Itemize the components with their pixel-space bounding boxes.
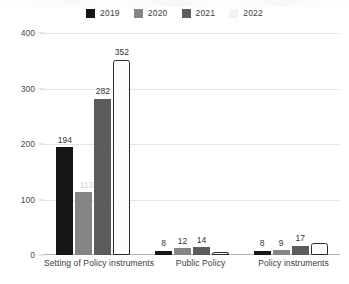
bar-value-label: 194 <box>58 136 72 145</box>
bar-slot: 9 <box>273 33 290 255</box>
bar-2021-1[interactable] <box>94 99 111 256</box>
bar-2022-1[interactable] <box>113 60 130 255</box>
legend-item-2022[interactable]: 2022 <box>229 9 263 18</box>
bar-value-label: 282 <box>96 87 110 96</box>
bar-slot: 352 <box>113 33 130 255</box>
bar-slot <box>311 33 328 255</box>
bar-2022-3[interactable] <box>311 243 328 255</box>
bar-slot: 8 <box>254 33 271 255</box>
legend-swatch-2019 <box>86 9 95 18</box>
y-axis-tick-mark <box>39 255 44 256</box>
y-axis-tick-mark <box>39 88 44 89</box>
legend-swatch-2021 <box>182 9 191 18</box>
bar-slot <box>212 33 229 255</box>
bar-slot: 282 <box>94 33 111 255</box>
y-axis-tick-label: 100 <box>21 195 35 205</box>
chart-legend: 2019 2020 2021 2022 <box>0 9 349 18</box>
bar-group: 8917 <box>241 33 340 255</box>
bar-chart: 2019 2020 2021 2022 0100200300400 194113… <box>0 0 349 284</box>
bar-slot: 14 <box>193 33 210 255</box>
bar-slot: 194 <box>56 33 73 255</box>
x-axis-category-label: Public Policy <box>154 258 247 268</box>
bar-2019-1[interactable] <box>56 147 73 255</box>
bar-group: 81214 <box>143 33 242 255</box>
bar-2021-2[interactable] <box>193 247 210 255</box>
y-axis: 0100200300400 <box>0 33 40 255</box>
bar-2019-2[interactable] <box>155 251 172 255</box>
y-axis-tick-label: 300 <box>21 84 35 94</box>
bar-slot: 17 <box>292 33 309 255</box>
bar-value-label: 352 <box>115 48 129 57</box>
bar-2019-3[interactable] <box>254 251 271 255</box>
y-axis-tick-mark <box>39 199 44 200</box>
plot-area: 194113282352812148917 <box>44 33 340 255</box>
bar-value-label: 12 <box>178 237 187 246</box>
bar-value-label: 8 <box>260 239 265 248</box>
legend-item-2020[interactable]: 2020 <box>134 9 168 18</box>
bar-groups: 194113282352812148917 <box>44 33 340 255</box>
x-axis-category-label: Policy instruments <box>247 258 340 268</box>
bar-slot: 8 <box>155 33 172 255</box>
scan-artifact <box>0 0 349 7</box>
legend-label-2020: 2020 <box>148 9 168 18</box>
y-axis-tick-mark <box>39 33 44 34</box>
legend-item-2021[interactable]: 2021 <box>182 9 216 18</box>
legend-label-2022: 2022 <box>243 9 263 18</box>
bar-value-label: 14 <box>197 236 206 245</box>
bar-value-label: 113 <box>80 181 94 190</box>
bar-slot: 113 <box>75 33 92 255</box>
legend-label-2021: 2021 <box>196 9 216 18</box>
legend-item-2019[interactable]: 2019 <box>86 9 120 18</box>
legend-label-2019: 2019 <box>100 9 120 18</box>
legend-swatch-2020 <box>134 9 143 18</box>
bar-value-label: 9 <box>279 239 284 248</box>
x-axis-category-label: Setting of Policy instruments <box>44 258 154 268</box>
y-axis-tick-label: 200 <box>21 139 35 149</box>
y-axis-tick-label: 0 <box>30 250 35 260</box>
bar-2021-3[interactable] <box>292 246 309 255</box>
bar-value-label: 8 <box>161 239 166 248</box>
bar-group: 194113282352 <box>44 33 143 255</box>
bar-2020-2[interactable] <box>174 248 191 255</box>
bar-2020-1[interactable] <box>75 192 92 255</box>
y-axis-tick-mark <box>39 144 44 145</box>
y-axis-tick-label: 400 <box>21 28 35 38</box>
bar-2020-3[interactable] <box>273 250 290 255</box>
bar-value-label: 17 <box>295 234 304 243</box>
legend-swatch-2022 <box>229 9 238 18</box>
bar-slot: 12 <box>174 33 191 255</box>
bar-2022-2[interactable] <box>212 252 229 255</box>
x-axis-category-labels: Setting of Policy instrumentsPublic Poli… <box>44 258 340 268</box>
